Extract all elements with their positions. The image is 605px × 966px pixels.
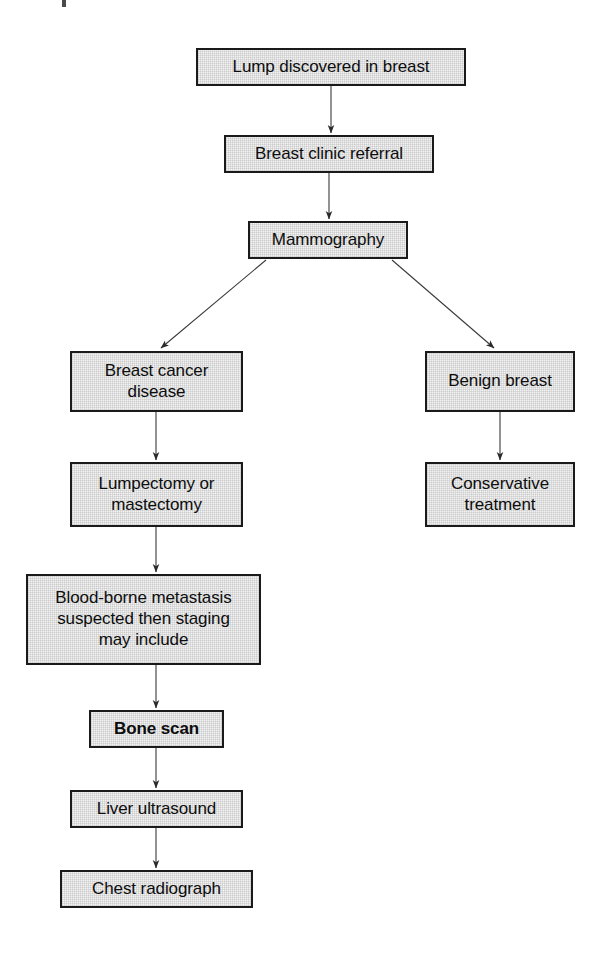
flowchart-node-label: Mammography	[266, 230, 390, 251]
flowchart-node-label: Bone scan	[108, 719, 205, 740]
flowchart-node-label: Conservative treatment	[445, 474, 555, 515]
flowchart-node-label: Lumpectomy or mastectomy	[93, 474, 221, 515]
edge-mammography-to-benign	[392, 260, 494, 348]
flowchart-node-label: Blood-borne metastasis suspected then st…	[49, 588, 237, 650]
flowchart-node-chest-radiograph: Chest radiograph	[60, 870, 253, 908]
flowchart-node-lumpectomy-or-mastectomy: Lumpectomy or mastectomy	[70, 462, 243, 527]
flowchart-canvas: Lump discovered in breastBreast clinic r…	[0, 0, 605, 966]
page-text-fragment	[62, 0, 66, 7]
flowchart-node-mammography: Mammography	[248, 221, 408, 259]
flowchart-node-bone-scan: Bone scan	[89, 710, 224, 748]
flowchart-node-lump-discovered: Lump discovered in breast	[196, 48, 466, 86]
flowchart-node-liver-ultrasound: Liver ultrasound	[70, 790, 243, 828]
flowchart-node-conservative-treatment: Conservative treatment	[425, 462, 575, 527]
flowchart-node-label: Chest radiograph	[86, 879, 227, 900]
flowchart-node-label: Breast cancer disease	[99, 361, 215, 402]
flowchart-node-breast-clinic-referral: Breast clinic referral	[224, 135, 434, 173]
flowchart-node-label: Lump discovered in breast	[227, 57, 436, 78]
flowchart-node-benign-breast: Benign breast	[425, 351, 575, 412]
flowchart-node-blood-borne-metastasis: Blood-borne metastasis suspected then st…	[26, 574, 261, 665]
flowchart-node-breast-cancer-disease: Breast cancer disease	[70, 351, 243, 412]
flowchart-node-label: Liver ultrasound	[91, 799, 222, 820]
flowchart-node-label: Benign breast	[442, 371, 558, 392]
edge-mammography-to-cancer	[161, 260, 266, 348]
flowchart-node-label: Breast clinic referral	[249, 144, 409, 165]
